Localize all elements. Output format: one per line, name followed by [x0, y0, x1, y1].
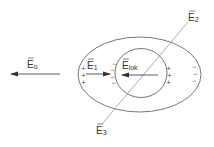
charges-outer-left: + + +: [81, 64, 86, 85]
svg-text:+: +: [167, 71, 172, 78]
svg-text:+: +: [81, 64, 86, 71]
svg-text:−: −: [192, 77, 197, 84]
svg-text:+: +: [81, 71, 86, 78]
dielectric-field-diagram: Eo E1 Elok E2 E3 + + + − − − − + + + − −…: [0, 0, 214, 147]
svg-text:Elok: Elok: [122, 60, 138, 71]
svg-text:Eo: Eo: [27, 59, 38, 70]
label-e3: E3: [96, 124, 107, 136]
svg-text:E3: E3: [96, 125, 107, 136]
label-elok: Elok: [122, 59, 138, 71]
charges-outer-right: − − −: [192, 63, 198, 84]
svg-text:−: −: [192, 63, 197, 70]
svg-text:E2: E2: [188, 12, 199, 23]
svg-text:+: +: [166, 64, 171, 71]
svg-text:E1: E1: [87, 60, 98, 71]
svg-text:−: −: [193, 70, 198, 77]
svg-text:+: +: [166, 78, 171, 85]
svg-text:+: +: [81, 78, 86, 85]
label-e2: E2: [188, 11, 199, 23]
svg-text:−: −: [111, 79, 116, 86]
svg-text:−: −: [110, 66, 115, 73]
label-e1: E1: [87, 59, 98, 71]
charges-inner-right: + + +: [166, 64, 172, 85]
charges-inner-left: − − − −: [110, 60, 117, 86]
label-e0: Eo: [27, 58, 38, 70]
